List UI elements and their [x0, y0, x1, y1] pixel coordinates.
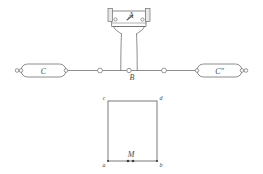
- corner-dot-b: [156, 160, 158, 162]
- right-flange: [146, 9, 151, 22]
- left-post: [114, 18, 117, 21]
- right-capsule-label-c2: Cʺ: [215, 67, 224, 76]
- device-label-a: A: [128, 11, 134, 20]
- junction-label-b: B: [130, 73, 135, 82]
- right-line-node: [162, 68, 167, 73]
- left-capsule-left-node: [19, 69, 23, 73]
- point-label-m: M: [127, 150, 136, 159]
- right-leg: [137, 34, 138, 71]
- right-capsule-right-node: [240, 69, 244, 73]
- left-end-terminal: [15, 69, 19, 73]
- point-m-right-dot: [132, 160, 135, 163]
- figure-sheet: A B C Cʺ c d a b M: [0, 0, 263, 174]
- neck-funnel: [114, 27, 122, 35]
- left-line-node: [98, 68, 103, 73]
- right-post: [141, 18, 144, 21]
- corner-label-b: b: [160, 162, 163, 168]
- corner-label-c: c: [103, 95, 106, 101]
- left-flange: [108, 9, 113, 22]
- right-end-terminal: [244, 69, 248, 73]
- right-capsule-left-node: [195, 69, 199, 73]
- neck-funnel-right: [137, 27, 145, 35]
- corner-dot-a: [107, 160, 109, 162]
- point-m-left-dot: [127, 160, 130, 163]
- left-capsule-label-c: C: [41, 67, 47, 76]
- corner-label-d: d: [160, 95, 164, 101]
- lower-diagram: c d a b M: [103, 95, 164, 168]
- corner-label-a: a: [103, 162, 106, 168]
- left-capsule-right-node: [64, 69, 68, 73]
- upper-diagram: A B C Cʺ: [15, 9, 248, 83]
- left-leg: [121, 34, 122, 71]
